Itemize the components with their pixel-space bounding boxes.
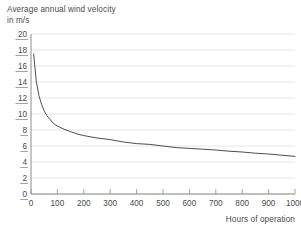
x-tick-marks (31, 189, 295, 194)
x-tick-label: 600 (183, 199, 197, 208)
x-tick-labels: 01002003004005006007008009001000 (29, 199, 301, 208)
y-tick-label: 10 (18, 110, 28, 119)
plot-area: 02468101214161820 0100200300400500600700… (0, 0, 301, 235)
y-tick-label: 20 (18, 30, 28, 39)
x-tick-label: 500 (156, 199, 170, 208)
y-tick-label: 2 (22, 174, 27, 183)
y-tick-label: 6 (22, 142, 27, 151)
x-tick-label: 0 (29, 199, 34, 208)
y-tick-label: 12 (18, 94, 28, 103)
gridlines (31, 34, 295, 194)
x-tick-label: 1000 (286, 199, 301, 208)
y-tick-label: 18 (18, 46, 28, 55)
y-tick-label: 16 (18, 62, 28, 71)
x-tick-label: 200 (77, 199, 91, 208)
wind-velocity-chart: Average annual wind velocity in m/s 0246… (0, 0, 301, 235)
x-tick-label: 700 (209, 199, 223, 208)
x-tick-label: 800 (235, 199, 249, 208)
data-series-line (34, 54, 295, 156)
y-tick-labels: 02468101214161820 (15, 30, 28, 200)
x-tick-label: 400 (130, 199, 144, 208)
y-tick-label: 14 (18, 78, 28, 87)
y-tick-label: 0 (22, 190, 27, 199)
x-tick-label: 100 (51, 199, 65, 208)
y-tick-label: 8 (22, 126, 27, 135)
x-tick-label: 300 (103, 199, 117, 208)
x-axis-title: Hours of operation (226, 215, 295, 224)
x-tick-label: 900 (262, 199, 276, 208)
y-tick-label: 4 (22, 158, 27, 167)
